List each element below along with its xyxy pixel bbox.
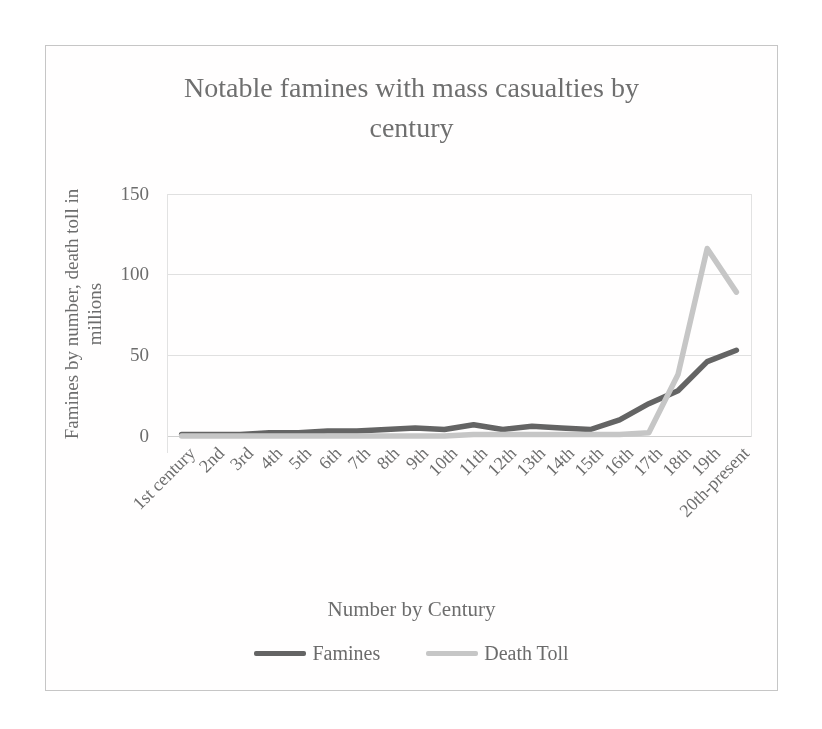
chart-title-line-2: century (46, 108, 777, 148)
x-tick-label: 4th (256, 443, 287, 474)
chart-title-line-1: Notable famines with mass casualties by (46, 68, 777, 108)
x-tick-label: 3rd (226, 443, 258, 475)
x-tick-label: 6th (314, 443, 345, 474)
gridline (167, 436, 751, 437)
legend-swatch (426, 651, 478, 656)
plot-border (751, 194, 752, 437)
legend-item-death-toll: Death Toll (426, 642, 568, 665)
y-axis-title-line-1: Famines by number, death toll in (60, 114, 83, 514)
chart-card: Notable famines with mass casualties by … (45, 45, 778, 691)
legend: FaminesDeath Toll (46, 642, 777, 665)
legend-swatch (254, 651, 306, 656)
legend-label: Famines (312, 642, 380, 665)
x-tick-label: 7th (344, 443, 375, 474)
famines-line (182, 350, 737, 434)
x-tick-label: 5th (285, 443, 316, 474)
death-toll-line (182, 249, 737, 437)
y-tick-label: 50 (89, 344, 149, 366)
y-tick-label: 100 (89, 263, 149, 285)
gridline (167, 274, 751, 275)
x-axis-title: Number by Century (46, 597, 777, 622)
x-tick-label: 1st century (128, 443, 199, 514)
plot-border (167, 194, 168, 453)
x-tick-label: 2nd (195, 443, 229, 477)
gridline (167, 355, 751, 356)
y-tick-label: 150 (89, 183, 149, 205)
legend-item-famines: Famines (254, 642, 380, 665)
y-tick-label: 0 (89, 425, 149, 447)
y-axis-title-line-2: millions (83, 114, 106, 514)
y-axis-title: Famines by number, death toll in million… (60, 114, 108, 514)
legend-label: Death Toll (484, 642, 568, 665)
x-tick-label: 8th (373, 443, 404, 474)
gridline (167, 194, 751, 195)
chart-title: Notable famines with mass casualties by … (46, 68, 777, 148)
